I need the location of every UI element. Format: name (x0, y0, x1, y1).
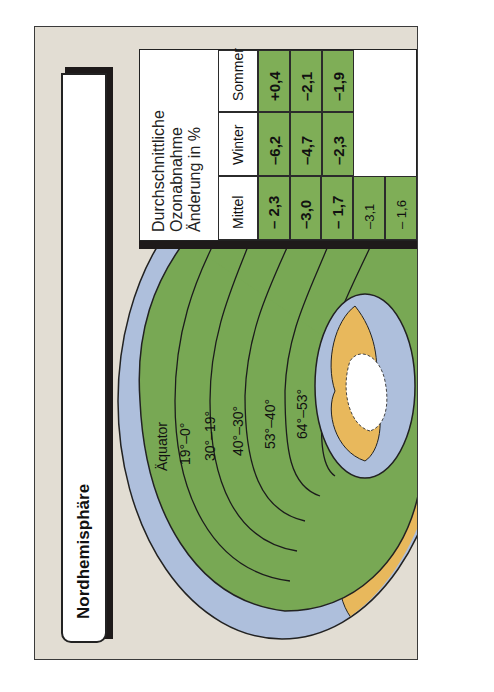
heading-line-1: Durchschnittliche (150, 50, 168, 232)
column-winter: Winter –6,2 –4,7 –2,3 (218, 112, 354, 176)
cell-winter-3: –2,3 (322, 112, 354, 176)
band-label-19-0: 19°–0° (177, 423, 193, 465)
equator-label: Äquator (154, 422, 170, 471)
cell-mittel-1: – 2,3 (258, 176, 290, 240)
title-box: Nordhemisphäre (61, 73, 107, 643)
column-header-winter: Winter (218, 112, 258, 176)
cell-mittel-2: –3,0 (290, 176, 322, 240)
table-shadow (139, 241, 417, 249)
cell-winter-2: –4,7 (290, 112, 322, 176)
figure-title: Nordhemisphäre (74, 484, 94, 619)
column-header-sommer: Sommer (218, 50, 258, 112)
cell-sommer-3: –1,9 (322, 50, 354, 112)
table-heading: Durchschnittliche Ozonabnahme Änderung i… (140, 50, 218, 240)
cell-mittel-3: – 1,7 (321, 176, 353, 240)
column-sommer: Sommer +0,4 –2,1 –1,9 (218, 50, 354, 112)
ozone-table: Durchschnittliche Ozonabnahme Änderung i… (139, 49, 417, 241)
heading-line-3: Änderung in % (186, 50, 204, 232)
band-label-40-30: 40°–30° (230, 406, 246, 456)
band-label-30-19: 30°–19° (202, 411, 218, 461)
table-grid: Mittel – 2,3 –3,0 – 1,7 –3,1 – 1,6 Winte… (218, 50, 416, 240)
figure-frame: 64°–53° 53°–40° 40°–30° 30°–19° 19°–0° Ä… (34, 26, 418, 660)
column-mittel: Mittel – 2,3 –3,0 – 1,7 –3,1 – 1,6 (218, 176, 417, 240)
band-label-64-53: 64°–53° (294, 389, 310, 439)
cell-mittel-4: –3,1 (353, 176, 385, 240)
cell-winter-1: –6,2 (258, 112, 290, 176)
band-label-53-40: 53°–40° (262, 399, 278, 449)
cell-sommer-1: +0,4 (258, 50, 290, 112)
column-header-mittel: Mittel (218, 176, 258, 240)
rotated-figure: 64°–53° 53°–40° 40°–30° 30°–19° 19°–0° Ä… (35, 27, 418, 660)
heading-line-2: Ozonabnahme (168, 50, 186, 232)
cell-mittel-5: – 1,6 (385, 176, 417, 240)
cell-sommer-2: –2,1 (290, 50, 322, 112)
